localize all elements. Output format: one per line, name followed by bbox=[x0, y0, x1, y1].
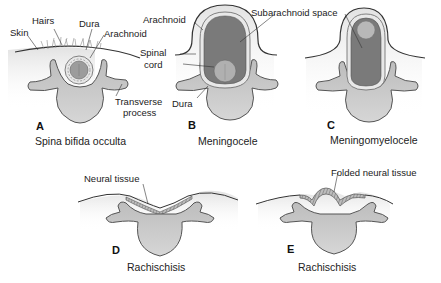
caption-c: Meningomyelocele bbox=[330, 134, 418, 146]
label-arachnoid-a: Arachnoid bbox=[104, 29, 147, 39]
label-hairs: Hairs bbox=[32, 16, 54, 26]
label-skin: Skin bbox=[10, 28, 28, 38]
caption-e: Rachischisis bbox=[298, 261, 356, 273]
label-transverse-process-2: process bbox=[123, 108, 156, 118]
caption-b: Meningocele bbox=[198, 135, 258, 147]
neural-tube-defects-diagram: Hairs Dura Skin Arachnoid Transverse pro… bbox=[0, 0, 441, 283]
panel-letter-b: B bbox=[188, 119, 196, 131]
label-spinal-cord-2: cord bbox=[144, 60, 162, 70]
panel-letter-a: A bbox=[36, 120, 44, 132]
label-neural-tissue: Neural tissue bbox=[84, 174, 139, 184]
caption-d: Rachischisis bbox=[127, 261, 185, 273]
panel-letter-e: E bbox=[287, 243, 294, 255]
panel-d-art bbox=[78, 184, 238, 256]
label-spinal-cord-1: Spinal bbox=[140, 48, 166, 58]
panel-a-art bbox=[8, 29, 140, 123]
label-transverse-process-1: Transverse bbox=[115, 97, 162, 107]
label-arachnoid-b: Arachnoid bbox=[143, 15, 186, 25]
label-folded-neural-tissue: Folded neural tissue bbox=[331, 168, 417, 178]
panel-e-art bbox=[256, 172, 393, 254]
label-dura-a: Dura bbox=[79, 19, 100, 29]
panel-c-art bbox=[305, 8, 425, 122]
panel-letter-d: D bbox=[112, 244, 120, 256]
panel-letter-c: C bbox=[327, 119, 335, 131]
label-subarachnoid-space: Subarachnoid space bbox=[251, 8, 338, 18]
caption-a: Spina bifida occulta bbox=[35, 135, 126, 147]
label-dura-b: Dura bbox=[172, 99, 193, 109]
